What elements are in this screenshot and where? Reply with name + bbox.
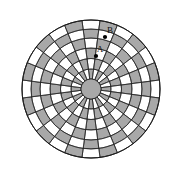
checker-cell (84, 38, 97, 48)
center-hub (81, 79, 101, 99)
marker-a-dot (94, 54, 98, 58)
checker-cell (82, 20, 100, 30)
checker-cell (121, 84, 132, 95)
checker-cell (142, 81, 151, 97)
checker-cell (50, 84, 61, 95)
checker-cell (40, 82, 50, 95)
marker-a-label: A (97, 44, 104, 54)
marker-b-dot (103, 35, 107, 39)
diagram-canvas: BA (0, 0, 174, 169)
polar-checkerboard-svg: BA (0, 0, 174, 169)
checker-cell (132, 82, 142, 95)
checker-cell (83, 29, 99, 38)
checker-cell (22, 80, 32, 98)
checker-cell (82, 148, 100, 158)
checker-cell (31, 81, 40, 97)
checker-cell (83, 140, 99, 149)
checker-cell (150, 80, 160, 98)
checker-cell (84, 130, 97, 140)
checker-cell (86, 119, 97, 130)
marker-b-label: B (107, 25, 113, 35)
